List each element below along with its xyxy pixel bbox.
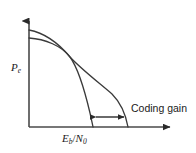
curve-coded xyxy=(29,30,128,127)
figure-canvas xyxy=(0,0,196,153)
x-axis-label: Eb/N0 xyxy=(62,133,87,144)
y-axis-label-subscript: e xyxy=(18,66,21,75)
coding-gain-annotation-label: Coding gain xyxy=(131,103,187,115)
y-axis-label-base: P xyxy=(11,61,18,73)
curve-uncoded xyxy=(29,38,93,127)
x-axis-label-subscript-b: b xyxy=(69,137,73,146)
y-axis-label: Pe xyxy=(11,62,21,73)
coding-gain-figure: Pe Eb/N0 Coding gain xyxy=(0,0,196,153)
x-axis-label-base-n: N xyxy=(76,132,83,144)
x-axis-label-subscript-0: 0 xyxy=(83,137,87,146)
x-axis-label-base-eb: E xyxy=(62,132,69,144)
